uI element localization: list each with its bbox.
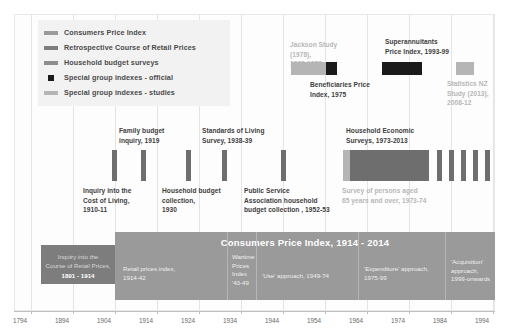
axis-tick-label: 1934	[223, 317, 237, 324]
axis-tick-label: 1894	[55, 317, 69, 324]
annotation-line: Household budget	[162, 186, 242, 196]
annotation-line: Superannuitants	[385, 37, 480, 47]
legend-item-consumers-price-index: Consumers Price Index	[44, 25, 224, 40]
annotation-line: 1910-11	[83, 205, 158, 215]
x-axis-line	[14, 311, 495, 312]
annotation-survey-persons-65-plus: Survey of persons aged 65 years and over…	[342, 186, 447, 205]
legend-item-label: Consumers Price Index	[64, 28, 146, 37]
bar-hes-wave	[485, 150, 490, 181]
segment-label-line: Retail prices index,	[123, 265, 218, 274]
annotation-line: 1930	[162, 205, 242, 215]
axis-tick-label: 1944	[265, 317, 279, 324]
bar-statistics-nz-study	[456, 62, 474, 75]
axis-tick	[115, 311, 116, 314]
annotation-family-budget-inquiry: Family budget inquiry, 1919	[119, 126, 199, 145]
segment-label-line: approach,	[451, 267, 499, 276]
annotation-line: collection,	[162, 196, 242, 206]
axis-tick	[493, 311, 494, 314]
legend-swatch-icon	[48, 75, 54, 81]
axis-tick-label: 1924	[181, 317, 195, 324]
bar-family-budget-inquiry	[141, 150, 146, 181]
bar-superannuitants-price-index	[382, 62, 422, 75]
annotation-household-budget-collection: Household budget collection, 1930	[162, 186, 242, 215]
axis-tick	[241, 311, 242, 314]
bar-hes-wave	[449, 150, 454, 181]
bar-standards-of-living-survey	[222, 150, 227, 181]
segment-label-line: '43-49	[232, 279, 256, 288]
axis-tick	[283, 311, 284, 314]
band-label-line: Course of Retail Prices,	[41, 261, 115, 270]
annotation-line: Price Index, 1993-99	[385, 47, 480, 57]
axis-tick	[325, 311, 326, 314]
legend-item-label: Special group indexes - studies	[64, 88, 175, 97]
band-label: Inquiry into the Course of Retail Prices…	[41, 252, 115, 280]
segment-label-acquisition-approach: 'Acquisition' approach, 1999-onwards	[451, 258, 499, 284]
band-retrospective-course-of-retail-prices: Inquiry into the Course of Retail Prices…	[41, 245, 115, 284]
segment-label-line: Wartime	[232, 253, 256, 262]
annotation-line: Household Economic	[346, 126, 446, 136]
segment-divider	[227, 232, 228, 300]
segment-label-line: Index	[232, 270, 256, 279]
axis-tick-label: 1994	[475, 317, 489, 324]
segment-label-use-approach: 'Use' approach, 1949-74	[262, 272, 357, 281]
segment-label-line: 'Expenditure' approach,	[364, 265, 444, 274]
axis-tick	[73, 311, 74, 314]
bar-household-economic-surveys	[350, 150, 429, 181]
annotation-line: Public Service	[244, 186, 339, 196]
legend-swatch-icon	[44, 31, 58, 35]
bar-beneficiaries-price-index	[326, 62, 337, 75]
annotation-line: 65 years and over, 1973-74	[342, 196, 447, 206]
annotation-beneficiaries: Beneficiaries Price Index, 1975	[310, 80, 395, 99]
annotation-line: Inquiry into the	[83, 186, 158, 196]
bar-psa-household-budget	[281, 150, 286, 181]
annotation-inquiry-cost-of-living: Inquiry into the Cost of Living, 1910-11	[83, 186, 158, 215]
annotation-line: Survey of persons aged	[342, 186, 447, 196]
segment-label-line: 1975-99	[364, 274, 444, 283]
segment-label-line: 1999-onwards	[451, 275, 499, 284]
axis-tick-label: 1954	[307, 317, 321, 324]
timeline-infographic: Consumers Price Index Retrospective Cour…	[0, 0, 509, 336]
annotation-psa-household-budget: Public Service Association household bud…	[244, 186, 339, 215]
segment-label-expenditure-approach: 'Expenditure' approach, 1975-99	[364, 265, 444, 282]
axis-tick-label: 1904	[97, 317, 111, 324]
axis-tick-label: 1914	[139, 317, 153, 324]
axis-tick	[409, 311, 410, 314]
annotation-line: Surveys, 1973-2013	[346, 136, 446, 146]
segment-divider	[358, 232, 359, 300]
band-consumers-price-index: Consumers Price Index, 1914 - 2014 Retai…	[115, 232, 495, 300]
legend-item-retrospective-course: Retrospective Course of Retail Prices	[44, 40, 224, 55]
axis-tick	[31, 311, 32, 314]
legend-item-label: Special group indexes - official	[64, 73, 173, 82]
legend-swatch-icon	[44, 61, 58, 65]
annotation-line: Survey, 1938-39	[202, 136, 297, 146]
annotation-line: Association household	[244, 196, 339, 206]
segment-divider	[445, 232, 446, 300]
annotation-line: 2008-12	[447, 98, 507, 108]
segment-label-retail-prices-index: Retail prices index, 1914-42	[123, 265, 218, 282]
legend: Consumers Price Index Retrospective Cour…	[38, 20, 230, 106]
legend-item-label: Household budget surveys	[64, 58, 159, 67]
legend-item-household-budget-surveys: Household budget surveys	[44, 55, 224, 70]
bar-household-budget-collection	[186, 150, 191, 181]
annotation-line: Beneficiaries Price	[310, 80, 395, 90]
axis-tick	[157, 311, 158, 314]
axis-tick	[199, 311, 200, 314]
bar-hes-wave	[473, 150, 478, 181]
legend-item-special-group-studies: Special group indexes - studies	[44, 85, 224, 100]
annotation-line: Family budget	[119, 126, 199, 136]
gridline	[31, 14, 32, 311]
legend-swatch-icon	[44, 91, 58, 95]
segment-label-wartime-prices-index: Wartime Prices Index '43-49	[232, 253, 256, 288]
annotation-line: Study (2013),	[447, 89, 507, 99]
band-label-years: 1891 - 1914	[41, 271, 115, 280]
axis-tick	[451, 311, 452, 314]
band-label-line: Inquiry into the	[41, 252, 115, 261]
segment-label-line: Prices	[232, 262, 256, 271]
axis-tick	[367, 311, 368, 314]
axis-tick-label: 1984	[433, 317, 447, 324]
annotation-line: Jackson Study (1978),	[290, 40, 360, 59]
segment-label-line: 1914-42	[123, 274, 218, 283]
annotation-line: Statistics NZ	[447, 79, 507, 89]
segment-divider	[256, 232, 257, 300]
bar-survey-persons-65-plus	[343, 150, 350, 181]
